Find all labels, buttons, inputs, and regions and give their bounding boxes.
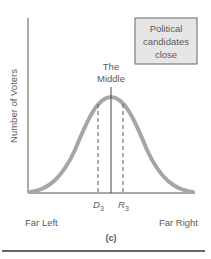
middle-label-line-2: Middle (97, 73, 125, 84)
far-right-label: Far Right (159, 217, 198, 228)
box-line-1: Political (150, 23, 183, 34)
r3-label: R3 (118, 199, 129, 212)
panel-label: (c) (106, 233, 117, 243)
box-line-2: candidates (143, 36, 189, 47)
far-left-label: Far Left (25, 217, 58, 228)
voter-distribution-chart: Political candidates close The Middle Nu… (0, 0, 211, 259)
box-line-3: close (155, 49, 177, 60)
d3-label: D3 (93, 199, 104, 212)
middle-label-line-1: The (103, 61, 119, 72)
y-axis-label: Number of Voters (8, 69, 19, 143)
